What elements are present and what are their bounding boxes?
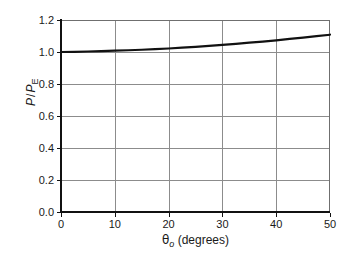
chart-figure: 0.00.20.40.60.81.01.2 01020304050 P/PE θ… — [0, 0, 350, 262]
x-tick-mark — [115, 213, 116, 217]
x-tick-label: 20 — [149, 219, 189, 230]
data-curve — [61, 20, 330, 212]
y-axis-title-denominator: P — [24, 85, 38, 93]
x-tick-label: 30 — [202, 219, 242, 230]
x-tick-mark — [222, 213, 223, 217]
x-tick-label: 40 — [256, 219, 296, 230]
series-line-0 — [61, 35, 330, 52]
y-tick-label: 0.4 — [8, 143, 54, 154]
y-tick-label: 0.2 — [8, 175, 54, 186]
x-tick-mark — [330, 213, 331, 217]
x-tick-mark — [169, 213, 170, 217]
x-tick-mark — [276, 213, 277, 217]
x-tick-label: 0 — [41, 219, 81, 230]
y-axis-title-denominator-subscript: E — [30, 79, 40, 85]
x-tick-mark — [61, 213, 62, 217]
x-tick-label: 10 — [95, 219, 135, 230]
y-axis-title-numerator: P — [24, 98, 38, 106]
x-tick-label: 50 — [310, 219, 350, 230]
y-axis-title: P/PE — [24, 52, 40, 132]
y-tick-label: 1.2 — [8, 15, 54, 26]
plot-area — [61, 20, 330, 212]
x-axis-title: θo (degrees) — [61, 233, 330, 249]
y-axis-title-slash: / — [24, 93, 38, 98]
x-axis-title-units: (degrees) — [174, 233, 229, 247]
y-tick-label: 0.0 — [8, 207, 54, 218]
